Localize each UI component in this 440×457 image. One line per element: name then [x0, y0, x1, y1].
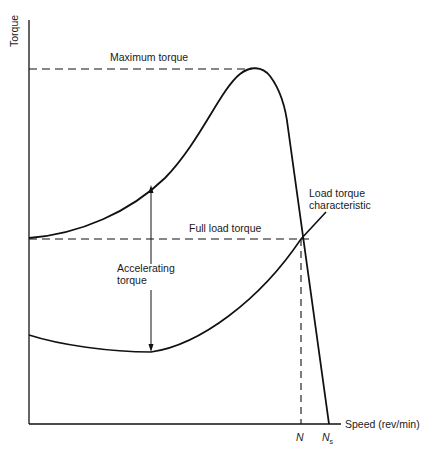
full-load-torque-label: Full load torque — [189, 222, 262, 234]
x-tick-n: N — [296, 431, 304, 443]
load-torque-curve — [29, 212, 326, 352]
torque-speed-diagram: Torque Maximum torque Full load torque L… — [0, 0, 440, 457]
load-characteristic-label-line2: characteristic — [309, 199, 371, 211]
accelerating-torque-label-line2: torque — [117, 274, 147, 286]
x-tick-ns-subscript: s — [330, 438, 334, 445]
max-torque-label: Maximum torque — [110, 51, 188, 63]
x-axis-label: Speed (rev/min) — [345, 418, 420, 430]
accelerating-torque-label-line1: Accelerating — [117, 262, 175, 274]
x-tick-ns: Ns — [322, 431, 334, 445]
motor-torque-curve — [29, 68, 329, 424]
load-characteristic-label-line1: Load torque — [309, 187, 365, 199]
y-axis-label: Torque — [8, 15, 20, 47]
arrowhead-down-icon — [149, 344, 154, 352]
